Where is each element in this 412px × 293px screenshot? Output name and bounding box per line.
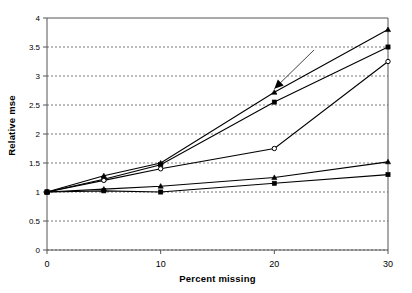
- y-tick-label: 3.5: [29, 43, 41, 52]
- y-tick-label: 1: [36, 188, 41, 197]
- axis-ticks: [43, 18, 388, 254]
- y-tick-label: 0: [36, 246, 41, 255]
- x-tick-label: 10: [156, 259, 166, 269]
- y-tick-label: 0.5: [29, 217, 41, 226]
- series-line: [47, 47, 388, 192]
- series-line: [47, 62, 388, 193]
- y-tick-label: 4: [36, 14, 41, 23]
- data-point-marker: [386, 173, 390, 177]
- x-tick-label: 20: [269, 259, 279, 269]
- data-point-marker: [386, 45, 390, 49]
- y-tick-label: 3: [36, 72, 41, 81]
- data-point-marker: [272, 100, 276, 104]
- data-point-marker: [102, 178, 106, 182]
- data-point-marker: [158, 167, 162, 171]
- chart-plot: 00.511.522.533.54 0102030: [0, 0, 412, 293]
- data-point-marker: [45, 190, 49, 194]
- data-point-marker: [272, 146, 276, 150]
- y-tick-label: 1.5: [29, 159, 41, 168]
- chart-figure: Relative mse Percent missing 00.511.522.…: [0, 0, 412, 293]
- data-point-marker: [159, 190, 163, 194]
- data-point-marker: [272, 90, 277, 95]
- data-point-marker: [385, 27, 390, 32]
- data-point-marker: [102, 189, 106, 193]
- data-point-marker: [272, 181, 276, 185]
- x-tick-label: 0: [44, 259, 49, 269]
- x-tick-label: 30: [383, 259, 393, 269]
- grid-lines: [47, 47, 388, 250]
- x-tick-labels: 0102030: [44, 259, 393, 269]
- series-line: [47, 30, 388, 192]
- y-tick-label: 2.5: [29, 101, 41, 110]
- y-tick-label: 2: [36, 130, 41, 139]
- data-point-marker: [386, 59, 390, 63]
- chart-annotations: [274, 50, 314, 89]
- data-series: [44, 27, 390, 194]
- y-tick-labels: 00.511.522.533.54: [29, 14, 41, 255]
